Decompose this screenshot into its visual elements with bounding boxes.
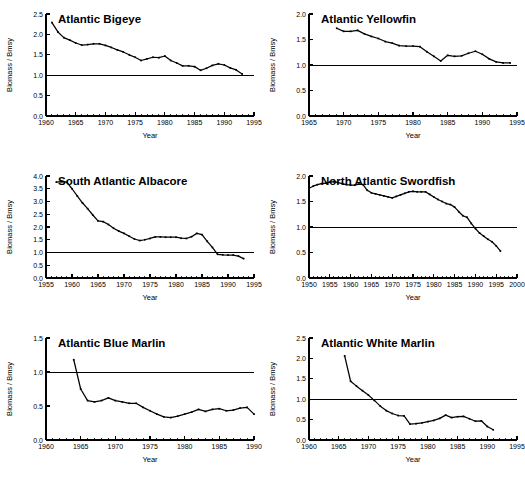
y-tick-label: 2.0 [33, 31, 43, 38]
data-point-marker [398, 45, 400, 47]
data-point-marker [118, 230, 120, 232]
x-axis-title: Year [405, 131, 421, 140]
data-point-marker [164, 55, 166, 57]
x-tick-label: 1985 [447, 281, 463, 288]
data-point-marker [379, 194, 381, 196]
x-tick-label: 1975 [142, 281, 158, 288]
data-point-marker [222, 254, 224, 256]
panel-title: Atlantic Blue Marlin [58, 337, 165, 349]
data-point-marker [439, 418, 441, 420]
data-point-marker [461, 55, 463, 57]
data-point-marker [170, 417, 172, 419]
x-tick-label: 1965 [364, 281, 380, 288]
y-axis-title: Biomass / Bmsy [5, 38, 14, 92]
x-tick-label: 1990 [479, 443, 495, 450]
data-point-marker [466, 216, 468, 218]
data-point-marker [368, 394, 370, 396]
data-point-marker [186, 238, 188, 240]
data-point-marker [92, 214, 94, 216]
y-tick-label: 4.0 [33, 173, 43, 180]
data-point-marker [500, 250, 502, 252]
data-point-marker [191, 411, 193, 413]
data-point-marker [212, 65, 214, 67]
y-tick-label: 0.0 [296, 437, 306, 444]
chart-panel-atlantic-yellowfin: 19651970197519801985199019950.00.51.01.5… [263, 0, 525, 161]
data-point-marker [196, 233, 198, 235]
data-point-marker [387, 196, 389, 198]
data-point-marker [487, 238, 489, 240]
x-tick-label: 1985 [450, 443, 466, 450]
data-point-marker [188, 65, 190, 67]
data-point-marker [205, 411, 207, 413]
data-point-marker [217, 63, 219, 65]
data-point-marker [421, 422, 423, 424]
data-point-marker [116, 49, 118, 51]
data-point-marker [101, 400, 103, 402]
data-point-marker [336, 27, 338, 29]
data-point-marker [182, 65, 184, 67]
data-point-marker [475, 420, 477, 422]
data-point-marker [475, 50, 477, 52]
x-tick-label: 1975 [142, 443, 158, 450]
y-tick-label: 3.5 [33, 185, 43, 192]
x-tick-label: 1970 [108, 443, 124, 450]
data-point-marker [108, 224, 110, 226]
x-tick-label: 1960 [343, 281, 359, 288]
data-point-marker [396, 196, 398, 198]
series-line-biomass-ratio [52, 23, 242, 74]
x-tick-label: 1980 [177, 443, 193, 450]
y-tick-label: 0.0 [33, 437, 43, 444]
data-point-marker [403, 415, 405, 417]
data-point-marker [383, 195, 385, 197]
data-point-marker [451, 417, 453, 419]
data-point-marker [425, 191, 427, 193]
data-point-marker [81, 44, 83, 46]
x-tick-label: 1965 [68, 119, 84, 126]
data-point-marker [479, 232, 481, 234]
data-point-marker [480, 420, 482, 422]
data-point-marker [158, 57, 160, 59]
y-tick-label: 1.5 [296, 36, 306, 43]
y-tick-label: 1.0 [33, 369, 43, 376]
panel-title: Atlantic White Marlin [321, 337, 435, 349]
data-point-marker [146, 58, 148, 60]
data-point-marker [350, 30, 352, 32]
data-point-marker [397, 415, 399, 417]
x-axis-title: Year [405, 293, 421, 302]
data-point-marker [212, 409, 214, 411]
data-point-marker [391, 197, 393, 199]
data-point-marker [87, 44, 89, 46]
x-tick-label: 1995 [246, 119, 262, 126]
data-point-marker [142, 407, 144, 409]
series-line-biomass-ratio [337, 28, 510, 63]
data-point-marker [144, 239, 146, 241]
x-tick-label: 1960 [38, 119, 54, 126]
data-point-marker [128, 54, 130, 56]
x-tick-label: 1985 [187, 119, 203, 126]
data-point-marker [441, 201, 443, 203]
data-point-marker [412, 190, 414, 192]
data-point-marker [458, 211, 460, 213]
data-point-marker [391, 413, 393, 415]
data-point-marker [176, 62, 178, 64]
data-point-marker [134, 56, 136, 58]
x-tick-label: 1990 [220, 281, 236, 288]
data-point-marker [253, 413, 255, 415]
data-point-marker [87, 400, 89, 402]
y-tick-label: 1.5 [33, 51, 43, 58]
x-tick-label: 1955 [38, 281, 54, 288]
data-point-marker [371, 192, 373, 194]
x-axis-title: Year [405, 455, 421, 464]
data-point-marker [51, 22, 53, 24]
data-point-marker [433, 196, 435, 198]
y-tick-label: 1.0 [33, 72, 43, 79]
x-tick-label: 1955 [322, 281, 338, 288]
data-point-marker [454, 206, 456, 208]
y-tick-label: 0.5 [296, 416, 306, 423]
series-line-biomass-ratio [345, 356, 494, 430]
x-tick-label: 1990 [216, 119, 232, 126]
x-tick-label: 1970 [384, 281, 400, 288]
data-point-marker [241, 73, 243, 75]
x-tick-label: 1965 [331, 443, 347, 450]
data-point-marker [206, 67, 208, 69]
